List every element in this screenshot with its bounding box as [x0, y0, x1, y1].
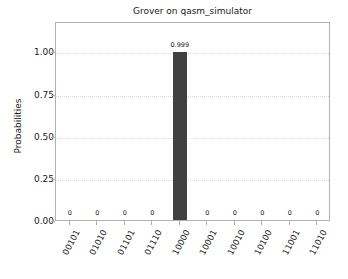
- bar-slot[interactable]: 0.999: [166, 23, 194, 220]
- bar-slot[interactable]: 0: [249, 23, 277, 220]
- bar-slot[interactable]: 0: [56, 23, 84, 220]
- bar-value-label: 0: [288, 209, 292, 217]
- bars-layer: 00000.99900000: [56, 23, 329, 220]
- x-tick-mark: [124, 221, 125, 225]
- y-tick-label: 0.00: [8, 216, 54, 226]
- y-tick-mark: [51, 179, 55, 180]
- bar-value-label: 0: [95, 209, 99, 217]
- chart-figure: Grover on qasm_simulator Probabilities 0…: [0, 0, 348, 279]
- bar-slot[interactable]: 0: [139, 23, 167, 220]
- y-tick-mark: [51, 95, 55, 96]
- bar-value-label: 0: [315, 209, 319, 217]
- bar-value-label: 0: [123, 209, 127, 217]
- x-tick-mark: [316, 221, 317, 225]
- y-tick-label: 1.00: [8, 47, 54, 57]
- bar-value-label: 0: [205, 209, 209, 217]
- x-tick-mark: [206, 221, 207, 225]
- bar-value-label: 0.999: [170, 41, 189, 49]
- bar-value-label: 0: [260, 209, 264, 217]
- y-tick-mark: [51, 221, 55, 222]
- bar-slot[interactable]: 0: [304, 23, 332, 220]
- bar-slot[interactable]: 0: [194, 23, 222, 220]
- x-tick-mark: [179, 221, 180, 225]
- bar-value-label: 0: [68, 209, 72, 217]
- x-tick-mark: [261, 221, 262, 225]
- bar-value-label: 0: [150, 209, 154, 217]
- plot-area: 00000.99900000: [55, 22, 330, 221]
- bar[interactable]: [173, 52, 187, 220]
- y-tick-mark: [51, 137, 55, 138]
- y-tick-label: 0.25: [8, 174, 54, 184]
- x-tick-mark: [69, 221, 70, 225]
- x-tick-mark: [151, 221, 152, 225]
- bar-slot[interactable]: 0: [276, 23, 304, 220]
- chart-title: Grover on qasm_simulator: [55, 6, 330, 16]
- x-tick-mark: [234, 221, 235, 225]
- bar-slot[interactable]: 0: [221, 23, 249, 220]
- y-tick-label: 0.75: [8, 90, 54, 100]
- y-tick-label: 0.50: [8, 132, 54, 142]
- bar-value-label: 0: [233, 209, 237, 217]
- bar-slot[interactable]: 0: [111, 23, 139, 220]
- y-tick-mark: [51, 52, 55, 53]
- x-tick-mark: [289, 221, 290, 225]
- bar-slot[interactable]: 0: [84, 23, 112, 220]
- x-tick-mark: [96, 221, 97, 225]
